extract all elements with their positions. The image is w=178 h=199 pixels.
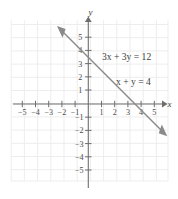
x-tick-label: 2 xyxy=(113,108,117,117)
y-tick-label: −3 xyxy=(75,140,84,149)
y-axis-label: y xyxy=(88,7,93,17)
x-tick-label: 5 xyxy=(152,108,156,117)
x-tick-label: −4 xyxy=(31,108,40,117)
y-tick-label: −2 xyxy=(75,126,84,135)
y-tick-label: 5 xyxy=(78,33,82,42)
coordinate-plane: −5 −4 −3 −2 −1 1 2 3 4 5 5 4 3 2 1 −1 −2… xyxy=(0,0,178,199)
x-axis-label: x xyxy=(167,99,172,109)
y-tick-label: −5 xyxy=(75,166,84,175)
x-tick-label: 3 xyxy=(126,108,130,117)
figure-background xyxy=(0,0,178,199)
equation-label-upper: 3x + 3y = 12 xyxy=(102,51,151,62)
x-tick-label: −3 xyxy=(44,108,53,117)
y-tick-label: 1 xyxy=(78,86,82,95)
y-tick-label: 3 xyxy=(78,60,82,69)
y-tick-label: −4 xyxy=(75,153,84,162)
x-tick-label: 1 xyxy=(99,108,103,117)
y-tick-label: −1 xyxy=(75,113,84,122)
x-tick-label: −5 xyxy=(18,108,27,117)
y-tick-label: 2 xyxy=(78,73,82,82)
equation-label-lower: x + y = 4 xyxy=(116,76,151,87)
x-tick-label: −2 xyxy=(58,108,67,117)
graph-figure: −5 −4 −3 −2 −1 1 2 3 4 5 5 4 3 2 1 −1 −2… xyxy=(0,0,178,199)
